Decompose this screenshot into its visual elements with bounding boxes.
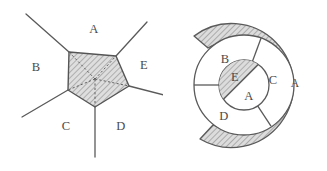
left-label-D: D [116,119,125,133]
left-diagram-panel: A B E C D [0,0,163,171]
left-label-A: A [89,22,98,36]
ray-upper-left [26,14,69,52]
right-label-middle-B: B [221,52,230,66]
left-label-E: E [140,58,148,72]
right-label-middle-D: D [219,109,228,123]
left-label-C: C [62,119,71,133]
left-label-B: B [32,60,41,74]
right-label-inner-E: E [231,70,239,84]
pentagon-network-svg: A B E C D [0,0,163,171]
ray-right [129,86,163,95]
right-diagram-panel: A B C D E A [163,0,327,171]
shaded-pentagon [68,52,129,107]
figure-root: A B E C D [0,0,327,171]
right-label-inner-A: A [244,89,253,103]
ray-upper-right [116,22,147,56]
right-label-middle-C: C [269,73,278,87]
ray-lower-left [22,90,68,117]
concentric-spiral-svg: A B C D E A [163,0,327,171]
right-label-outer-A: A [291,77,300,89]
